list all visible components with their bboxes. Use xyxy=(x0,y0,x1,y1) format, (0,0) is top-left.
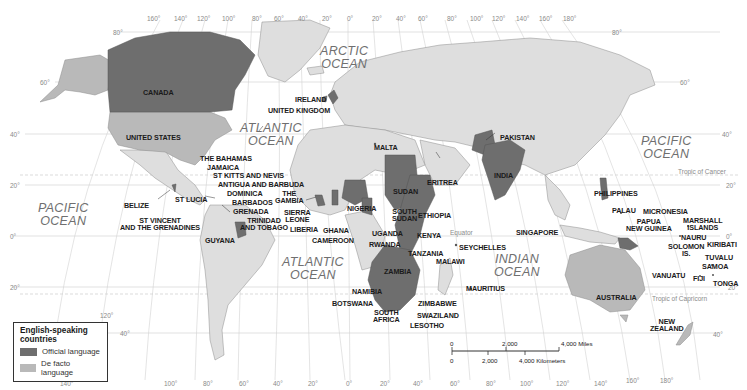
lon-label: 160° xyxy=(147,15,160,22)
country-label-mauritius: MAURITIUS xyxy=(466,285,505,292)
country-label-australia: AUSTRALIA xyxy=(596,294,637,301)
lat-label: 80° xyxy=(113,29,123,36)
country-label-dominica: DOMINICA xyxy=(227,190,263,197)
country-label-marshall-islands: MARSHALLISLANDS xyxy=(683,217,723,231)
country-label-swaziland: SWAZILAND xyxy=(417,312,459,319)
country-label-tonga: TONGA xyxy=(713,280,738,287)
country-label-guyana: GUYANA xyxy=(205,237,235,244)
country-label-solomon-is: SOLOMONIS. xyxy=(668,243,704,257)
lon-label: 100° xyxy=(470,15,483,22)
lon-label: 20° xyxy=(322,15,332,22)
country-label-uganda: UGANDA xyxy=(372,230,403,237)
lon-label: 120° xyxy=(100,312,113,319)
country-label-south-sudan: SOUTHSUDAN xyxy=(392,208,417,222)
lon-label: 120° xyxy=(556,380,569,387)
lat-label: 60° xyxy=(680,79,690,86)
ocean-label-atlantic-south: ATLANTICOCEAN xyxy=(282,256,344,282)
country-label-trinidad: TRINIDADAND TOBAGO xyxy=(240,217,288,231)
legend-item-de-facto: De facto language xyxy=(20,359,101,377)
country-label-st-lucia: ST LUCIA xyxy=(175,196,207,203)
country-label-new-zealand: NEWZEALAND xyxy=(650,318,684,332)
country-label-antigua: ANTIGUA AND BARBUDA xyxy=(218,181,304,188)
lon-label: 80° xyxy=(486,380,496,387)
country-label-malawi: MALAWI xyxy=(436,258,465,265)
country-label-kiribati: KIRIBATI xyxy=(707,241,737,248)
lon-label: 20° xyxy=(372,15,382,22)
lon-label: 140° xyxy=(516,15,529,22)
map-legend: English-speaking countries Official lang… xyxy=(13,322,108,382)
lat-label: 0° xyxy=(10,233,16,240)
lon-label: 140° xyxy=(594,380,607,387)
country-label-malta: MALTA xyxy=(374,144,398,151)
country-label-sudan: SUDAN xyxy=(393,188,418,195)
lon-label: 40° xyxy=(413,380,423,387)
legend-item-official: Official language xyxy=(20,347,101,356)
lon-label: 180° xyxy=(660,377,673,384)
scale-miles-0: 0 xyxy=(450,340,453,347)
lat-label: 40° xyxy=(120,330,130,337)
country-label-bahamas: THE BAHAMAS xyxy=(200,155,252,162)
country-label-palau: PALAU xyxy=(612,207,636,214)
country-label-png: PAPUANEW GUINEA xyxy=(626,218,672,232)
ocean-label-pacific-west: PACIFICOCEAN xyxy=(38,202,88,228)
country-label-pakistan: PAKISTAN xyxy=(500,134,535,141)
country-label-singapore: SINGAPORE xyxy=(516,229,558,236)
country-label-belize: BELIZE xyxy=(124,202,149,209)
lon-label: 80° xyxy=(252,15,262,22)
lat-label: 20° xyxy=(10,182,20,189)
country-label-gambia: THEGAMBIA xyxy=(275,190,304,204)
lon-label: 100° xyxy=(164,380,177,387)
lon-label: 120° xyxy=(492,15,505,22)
lat-label: 80° xyxy=(612,29,622,36)
lon-label: 60° xyxy=(450,380,460,387)
country-label-kenya: KENYA xyxy=(417,232,441,239)
lon-label: 60° xyxy=(239,380,249,387)
ocean-label-arctic: ARCTICOCEAN xyxy=(320,45,368,71)
country-label-nauru: NAURU xyxy=(681,234,706,241)
lon-label: 100° xyxy=(520,380,533,387)
lon-label: 20° xyxy=(380,380,390,387)
country-label-tuvalu: TUVALU xyxy=(705,254,733,261)
country-label-liberia: LIBERIA xyxy=(290,226,318,233)
lon-label: 40° xyxy=(298,15,308,22)
country-label-st-kitts: ST KITTS AND NEVIS xyxy=(213,172,284,179)
country-label-vanuatu: VANUATU xyxy=(652,272,685,279)
scale-km-2000: 2,000 xyxy=(482,357,497,364)
country-label-fiji: FIJI xyxy=(693,275,705,282)
country-label-zambia: ZAMBIA xyxy=(384,268,411,275)
lon-label: 80° xyxy=(203,380,213,387)
lat-label: 0° xyxy=(726,233,732,240)
lat-label: 60° xyxy=(40,79,50,86)
scale-miles-4000: 4,000 Miles xyxy=(561,340,593,347)
scale-km-0: 0 xyxy=(450,357,453,364)
country-label-micronesia: MICRONESIA xyxy=(643,208,688,215)
country-label-eritrea: ERITREA xyxy=(427,179,458,186)
country-label-cameroon: CAMEROON xyxy=(312,237,354,244)
lat-label: 40° xyxy=(10,131,20,138)
lon-label: 0° xyxy=(346,380,352,387)
equator-label: Equator xyxy=(450,229,473,236)
scale-miles-2000: 2,000 xyxy=(502,340,517,347)
country-label-ethiopia: ETHIOPIA xyxy=(418,212,451,219)
country-label-united-states: UNITED STATES xyxy=(126,134,181,141)
lon-label: 40° xyxy=(396,15,406,22)
country-label-rwanda: RWANDA xyxy=(369,241,401,248)
country-label-philippines: PHILIPPINES xyxy=(594,190,638,197)
country-label-nigeria: NIGERIA xyxy=(347,205,376,212)
country-label-samoa: SAMOA xyxy=(702,263,728,270)
lon-label: 180° xyxy=(563,15,576,22)
lat-label: 40° xyxy=(713,331,723,338)
country-label-st-vincent: ST VINCENTAND THE GRENADINES xyxy=(120,217,200,231)
country-label-zimbabwe: ZIMBABWE xyxy=(418,300,457,307)
lat-label: 40° xyxy=(722,131,732,138)
lon-label: 160° xyxy=(626,377,639,384)
country-label-botswana: BOTSWANA xyxy=(332,300,373,307)
country-label-barbados: BARBADOS xyxy=(232,199,273,206)
lon-label: 80° xyxy=(447,15,457,22)
country-label-grenada: GRENADA xyxy=(233,208,269,215)
ocean-label-atlantic-north: ATLANTICOCEAN xyxy=(240,122,302,148)
country-label-ireland: IRELAND xyxy=(295,96,326,103)
country-label-ghana: GHANA xyxy=(323,227,349,234)
de-facto-language-swatch xyxy=(20,364,36,372)
country-label-canada: CANADA xyxy=(143,89,174,96)
